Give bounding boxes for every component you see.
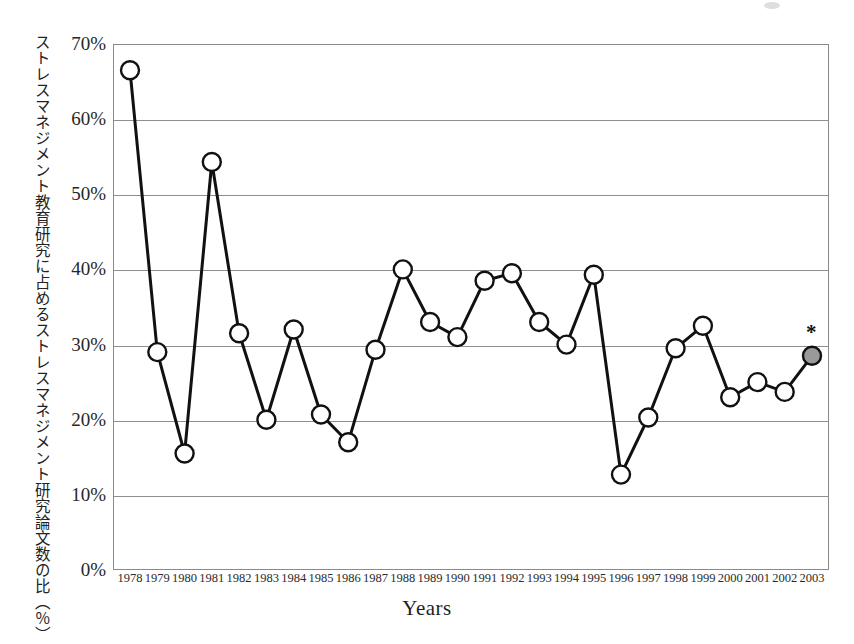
y-tick-label-40: 40%	[44, 258, 106, 280]
gridline-50	[114, 195, 828, 196]
x-tick-label-2003: 2003	[792, 571, 832, 586]
y-tick-label-20: 20%	[44, 409, 106, 431]
top-edge-artifact	[764, 2, 780, 9]
y-tick-label-50: 50%	[44, 183, 106, 205]
x-axis-title: Years	[0, 596, 854, 621]
gridline-10	[114, 496, 828, 497]
gridline-30	[114, 346, 828, 347]
plot-area	[113, 44, 829, 570]
gridline-20	[114, 421, 828, 422]
x-axis-tick-labels: 1978197919801981198219831984198519861987…	[0, 571, 854, 593]
y-tick-label-10: 10%	[44, 484, 106, 506]
gridline-40	[114, 270, 828, 271]
asterisk-annotation: *	[806, 322, 817, 343]
y-tick-label-30: 30%	[44, 334, 106, 356]
gridline-60	[114, 120, 828, 121]
y-tick-label-60: 60%	[44, 108, 106, 130]
y-tick-label-70: 70%	[44, 33, 106, 55]
y-axis-tick-labels: 70%60%50%40%30%20%10%0%	[38, 0, 106, 644]
